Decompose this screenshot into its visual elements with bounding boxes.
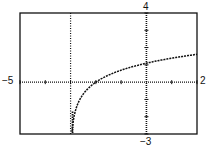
ymax-label: 4 <box>143 2 149 12</box>
graph-screen <box>0 0 213 158</box>
ymin-label: −3 <box>140 137 151 147</box>
graph-frame <box>20 13 197 134</box>
function-curve <box>72 54 197 134</box>
axes <box>20 13 197 134</box>
xmax-label: 2 <box>200 76 206 86</box>
xmin-label: −5 <box>2 76 13 86</box>
